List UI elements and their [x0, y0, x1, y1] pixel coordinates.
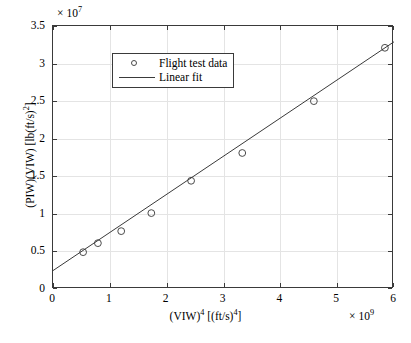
legend-line-icon — [117, 70, 157, 84]
data-point-marker — [239, 150, 246, 157]
legend-marker-icon — [117, 56, 157, 70]
x-tick-label: 2 — [146, 292, 186, 304]
data-point-marker — [148, 210, 155, 217]
data-point-marker — [118, 228, 125, 235]
legend-item-linear-fit: Linear fit — [117, 70, 227, 84]
plot-axes-area: Flight test data Linear fit — [52, 25, 393, 288]
figure-canvas: × 107 × 109 Flight test data Linear fit … — [0, 0, 411, 343]
x-tick-label: 3 — [203, 292, 243, 304]
y-exponent-base: 10 — [66, 7, 78, 19]
y-axis-exponent-label: × 107 — [57, 7, 82, 19]
y-exponent-prefix: × — [57, 7, 66, 19]
data-point-marker — [310, 98, 317, 105]
legend-item-flight-test-data: Flight test data — [117, 56, 227, 70]
x-tick-label: 5 — [316, 292, 356, 304]
x-axis-title: (VIW)4 [(ft/s)4] — [0, 310, 411, 322]
x-tick-label: 1 — [89, 292, 129, 304]
legend-label-linear-fit: Linear fit — [157, 71, 202, 84]
x-tick-label: 6 — [373, 292, 411, 304]
x-tick-label: 4 — [259, 292, 299, 304]
y-axis-title: (PIW)(VIW) [lb(ft/s)2] — [24, 15, 36, 295]
y-exponent-power: 7 — [78, 5, 82, 14]
legend-label-flight-test-data: Flight test data — [157, 57, 227, 70]
legend-box: Flight test data Linear fit — [112, 53, 234, 88]
